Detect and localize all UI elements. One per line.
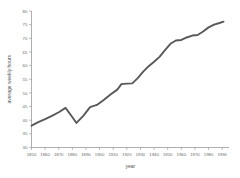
y-tick-label: 65	[23, 50, 28, 55]
x-tick-label: 1850	[27, 152, 37, 157]
y-tick-label: 60	[23, 63, 28, 68]
chart-container: 3035404550556065707580 18501860187018801…	[0, 0, 240, 178]
y-tick-label: 45	[23, 104, 28, 109]
x-tick-label: 1880	[68, 152, 78, 157]
x-tick-label: 1940	[149, 152, 159, 157]
x-tick-label: 1930	[136, 152, 146, 157]
y-tick-label: 40	[23, 118, 28, 123]
y-tick-label: 80	[23, 9, 28, 14]
x-tick-label: 1900	[95, 152, 105, 157]
x-tick-label: 1950	[163, 152, 173, 157]
x-axis-title: year	[125, 163, 135, 169]
x-tick-label: 1860	[40, 152, 50, 157]
x-tick-label: 1890	[81, 152, 91, 157]
x-tick-label: 1970	[190, 152, 200, 157]
y-tick-label: 55	[23, 77, 28, 82]
y-tick-label: 35	[23, 131, 28, 136]
x-axis-ticks: 1850186018701880189019001910192019301940…	[27, 148, 228, 157]
y-axis-title: average weekly hours	[6, 54, 12, 103]
data-series-line	[32, 22, 224, 126]
x-tick-label: 1990	[217, 152, 227, 157]
x-tick-label: 1910	[108, 152, 118, 157]
y-tick-label: 75	[23, 22, 28, 27]
x-tick-label: 1980	[204, 152, 214, 157]
x-tick-label: 1870	[54, 152, 64, 157]
y-axis-ticks: 3035404550556065707580	[23, 9, 32, 151]
line-chart: 3035404550556065707580 18501860187018801…	[0, 0, 240, 178]
x-tick-label: 1960	[177, 152, 187, 157]
y-tick-label: 70	[23, 36, 28, 41]
x-tick-label: 1920	[122, 152, 132, 157]
y-tick-label: 50	[23, 91, 28, 96]
y-tick-label: 30	[23, 145, 28, 150]
